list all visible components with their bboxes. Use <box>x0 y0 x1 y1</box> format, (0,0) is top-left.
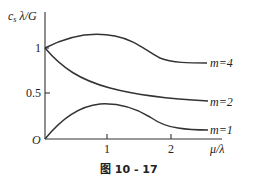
curve-m4 <box>45 34 207 63</box>
label-m4: m=4 <box>210 56 233 70</box>
figure-caption: 图 10 - 17 <box>100 163 158 176</box>
label-m2: m=2 <box>210 95 233 109</box>
label-m1: m=1 <box>210 123 233 137</box>
y-axis-label: cs λ/G <box>8 9 37 24</box>
y-tick-label-0.5: 0.5 <box>26 86 41 100</box>
x-tick-label-2: 2 <box>168 142 174 156</box>
curve-m2 <box>45 48 208 101</box>
x-tick-label-1: 1 <box>104 142 110 156</box>
origin-label: O <box>32 133 41 147</box>
y-tick-label-1: 1 <box>35 41 41 55</box>
line-chart: cs λ/G 1 0.5 O 1 2 μ/λ m=4 m=2 m=1 图 10 … <box>0 0 254 180</box>
x-axis-label: μ/λ <box>209 142 225 156</box>
curve-m1 <box>45 104 208 139</box>
